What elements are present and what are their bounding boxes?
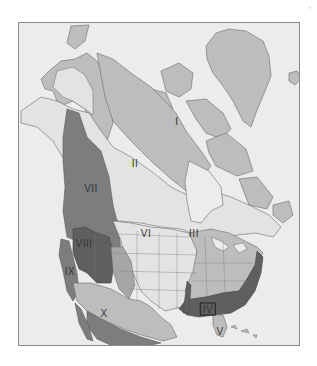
region-label-10: X xyxy=(100,308,107,319)
region-label-9: IX xyxy=(65,266,75,277)
region-label-6: VI xyxy=(141,228,151,239)
region-label-8: VIII xyxy=(75,238,92,249)
siberia-tip xyxy=(67,25,89,49)
caribbean-islands xyxy=(231,325,257,338)
region-label-4: IV xyxy=(200,303,216,316)
region-label-5: V xyxy=(216,326,223,337)
newfoundland xyxy=(273,201,293,223)
baffin-island xyxy=(206,133,253,176)
map-frame: I II III IV V VI VII VIII IX X xyxy=(18,22,300,346)
region-label-3: III xyxy=(189,228,199,239)
north-america-map xyxy=(19,23,300,346)
region-label-2: II xyxy=(132,158,139,169)
region-label-1: I xyxy=(175,116,178,127)
iceland xyxy=(289,71,300,85)
region-label-7: VII xyxy=(84,183,98,194)
corner-mark: , xyxy=(308,0,311,10)
